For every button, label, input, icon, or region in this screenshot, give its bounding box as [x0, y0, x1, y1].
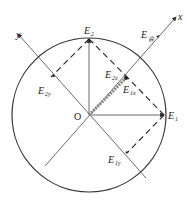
- y-axis-label: y: [15, 29, 21, 40]
- svg-text:E: E: [83, 25, 90, 36]
- svg-text:1y: 1y: [115, 160, 121, 166]
- svg-text:E: E: [104, 69, 111, 80]
- x-axis-label: x: [177, 11, 183, 22]
- svg-text:合: 合: [148, 35, 155, 42]
- origin-label: O: [74, 111, 81, 122]
- label-e2x: E 2x: [104, 69, 118, 81]
- svg-text:E: E: [167, 110, 174, 121]
- svg-text:E: E: [107, 154, 114, 165]
- component-x-dot: [124, 76, 128, 80]
- resultant-arrowhead: [156, 35, 160, 38]
- svg-text:E: E: [122, 84, 129, 95]
- svg-text:E: E: [37, 85, 44, 96]
- svg-text:1x: 1x: [130, 90, 136, 96]
- label-e2: E 2: [83, 25, 94, 37]
- label-e1: E 1: [167, 110, 178, 122]
- label-e1x: E 1x: [122, 84, 136, 96]
- svg-text:2x: 2x: [112, 75, 118, 81]
- vector-decomposition-diagram: O x y E 2 E 1 E 合 E 2x E 1x E 2y E 1y: [0, 0, 193, 201]
- svg-text:2: 2: [91, 31, 94, 37]
- svg-text:2y: 2y: [45, 91, 51, 97]
- component-x-hatched: [89, 79, 125, 115]
- svg-text:1: 1: [175, 116, 178, 122]
- y-axis: [18, 34, 146, 178]
- svg-text:E: E: [140, 29, 147, 40]
- label-e2y: E 2y: [37, 85, 51, 97]
- label-e1y: E 1y: [107, 154, 121, 166]
- label-e-resultant: E 合: [140, 29, 155, 42]
